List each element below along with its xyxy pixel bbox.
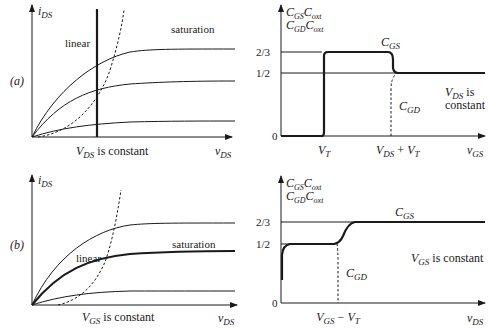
- cgs-curve-label: CGS: [381, 35, 401, 51]
- xtick-vgs-minus-vt: VGS − VT: [316, 310, 360, 326]
- xtick-vds-plus-vt: VDS + VT: [376, 143, 420, 159]
- panel-b-label: (b): [10, 238, 24, 252]
- tick-1-2: 1/2: [256, 238, 270, 250]
- constant-vgs-label: VGS is constant: [82, 310, 155, 326]
- region-saturation-label: saturation: [171, 23, 215, 35]
- constant-vds-label: VDS is constant: [76, 144, 149, 160]
- region-saturation-label: saturation: [172, 238, 216, 250]
- cgs-curve-label: CGS: [395, 205, 415, 221]
- saturation-boundary-dashed: [58, 190, 121, 305]
- note-vgs-constant: VGS is constant: [411, 251, 484, 267]
- mosfet-capacitance-diagram: (a) iDS vDS linear saturation VDS is con…: [0, 0, 492, 330]
- cgd-curve-dashed: [391, 74, 396, 136]
- xtick-vt: VT: [318, 143, 331, 159]
- panel-b-iv-plot: (b) iDS vDS linear saturation VGS is con…: [10, 173, 237, 327]
- region-linear-label: linear: [65, 37, 90, 49]
- tick-0: 0: [272, 297, 278, 309]
- iv-curve-mid: [32, 81, 235, 137]
- iv-curve-high: [32, 49, 235, 137]
- note-vds-constant-line2: constant: [445, 98, 486, 112]
- saturation-boundary-dashed: [38, 10, 124, 137]
- tick-0: 0: [272, 130, 278, 142]
- cgd-curve-dashed: [337, 244, 338, 303]
- tick-2-3: 2/3: [256, 216, 271, 228]
- iv-curve-mid-highlighted: [32, 251, 235, 305]
- panel-b-capacitance-plot: CGSCoxt CGDCoxt 2/3 1/2 0 CGS CGD VGS − …: [256, 176, 485, 327]
- iv-curve-low: [32, 291, 235, 305]
- x-axis-label: vGS: [467, 143, 484, 159]
- x-axis-label: vDS: [215, 144, 232, 160]
- y-axis-label: iDS: [38, 4, 53, 20]
- panel-a-label: (a): [10, 74, 24, 88]
- tick-1-2: 1/2: [256, 67, 270, 79]
- cgd-curve-label: CGD: [346, 266, 368, 282]
- iv-curve-low: [32, 121, 235, 137]
- panel-a-iv-plot: (a) iDS vDS linear saturation VDS is con…: [10, 4, 235, 160]
- cgd-curve-label: CGD: [399, 99, 421, 115]
- x-axis-label: vDS: [467, 311, 484, 327]
- tick-2-3: 2/3: [256, 46, 271, 58]
- y-axis-label: iDS: [38, 173, 53, 189]
- x-axis-label: vDS: [218, 311, 235, 327]
- iv-curve-high: [32, 223, 235, 305]
- panel-a-capacitance-plot: CGSCoxt CGDCoxt 2/3 1/2 0 CGS CGD VT VDS…: [256, 5, 486, 159]
